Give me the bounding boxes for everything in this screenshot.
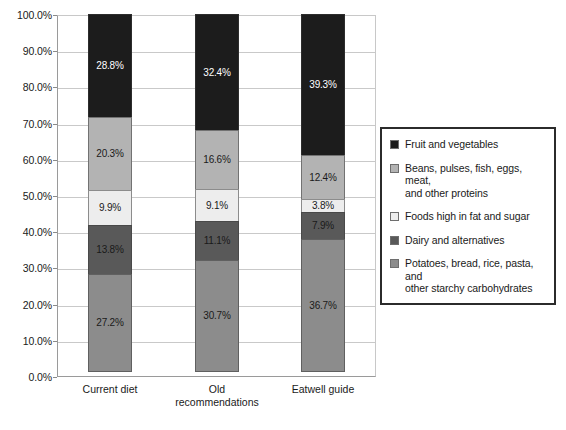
legend-swatch-icon bbox=[390, 140, 399, 149]
y-tick-label: 80.0% bbox=[0, 82, 52, 93]
bar-segment-value: 13.8% bbox=[96, 245, 123, 255]
bar-segment-value: 11.1% bbox=[204, 236, 231, 246]
bar-segment-value: 39.3% bbox=[309, 80, 336, 90]
x-tick-label: Current diet bbox=[50, 383, 170, 396]
stacked-bar-chart: 0.0%10.0%20.0%30.0%40.0%50.0%60.0%70.0%8… bbox=[0, 0, 566, 430]
y-tick-label: 10.0% bbox=[0, 336, 52, 347]
x-axis: Current dietOldrecommendationsEatwell gu… bbox=[57, 383, 376, 419]
bar-segment[interactable]: 16.6% bbox=[195, 130, 239, 190]
bar-segment[interactable]: 9.1% bbox=[195, 189, 239, 222]
x-tick-label: Eatwell guide bbox=[263, 383, 383, 396]
y-tick-label: 30.0% bbox=[0, 263, 52, 274]
bar-segment[interactable]: 36.7% bbox=[301, 239, 345, 372]
bar-column[interactable]: 32.4%16.6%9.1%11.1%30.7% bbox=[195, 15, 239, 377]
legend-label: Potatoes, bread, rice, pasta, andother s… bbox=[405, 257, 548, 295]
bar-segment[interactable]: 30.7% bbox=[195, 260, 239, 371]
legend-label: Foods high in fat and sugar bbox=[405, 210, 530, 223]
y-tick-label: 90.0% bbox=[0, 46, 52, 57]
bar-segment[interactable]: 11.1% bbox=[195, 221, 239, 261]
legend-label: Fruit and vegetables bbox=[405, 138, 498, 151]
x-tick-label-line: Eatwell guide bbox=[263, 383, 383, 396]
y-tick-label: 0.0% bbox=[0, 372, 52, 383]
bar-segment[interactable]: 3.8% bbox=[301, 199, 345, 213]
legend-item[interactable]: Foods high in fat and sugar bbox=[390, 210, 548, 223]
legend-swatch-icon bbox=[390, 236, 399, 245]
legend-item[interactable]: Potatoes, bread, rice, pasta, andother s… bbox=[390, 257, 548, 295]
y-tick-label: 40.0% bbox=[0, 227, 52, 238]
bar-segment-value: 9.1% bbox=[206, 201, 228, 211]
bar-segment-value: 20.3% bbox=[96, 149, 123, 159]
legend-item[interactable]: Beans, pulses, fish, eggs, meat,and othe… bbox=[390, 162, 548, 200]
bar-segment-value: 9.9% bbox=[99, 203, 121, 213]
bar-column[interactable]: 39.3%12.4%3.8%7.9%36.7% bbox=[301, 15, 345, 377]
legend-swatch-icon bbox=[390, 259, 399, 268]
bar-segment-value: 32.4% bbox=[203, 68, 230, 78]
legend-swatch-icon bbox=[390, 212, 399, 221]
legend-label-line: Beans, pulses, fish, eggs, meat, bbox=[405, 162, 548, 187]
bar-segment[interactable]: 28.8% bbox=[88, 14, 132, 118]
bar-segment-value: 16.6% bbox=[203, 155, 230, 165]
x-tick-label-line: Current diet bbox=[50, 383, 170, 396]
y-tick-label: 100.0% bbox=[0, 10, 52, 21]
bar-segment-value: 30.7% bbox=[203, 311, 230, 321]
bar-segment[interactable]: 9.9% bbox=[88, 190, 132, 226]
bars-layer: 28.8%20.3%9.9%13.8%27.2%32.4%16.6%9.1%11… bbox=[57, 15, 376, 377]
x-tick-label-line: Old bbox=[157, 383, 277, 396]
bar-segment[interactable]: 27.2% bbox=[88, 274, 132, 372]
bar-segment-value: 12.4% bbox=[309, 173, 336, 183]
legend-label-line: Fruit and vegetables bbox=[405, 138, 498, 151]
y-tick-mark bbox=[53, 377, 57, 378]
x-tick-label-line: recommendations bbox=[157, 396, 277, 409]
bar-segment[interactable]: 13.8% bbox=[88, 225, 132, 275]
legend-label: Dairy and alternatives bbox=[405, 234, 504, 247]
legend-label-line: Foods high in fat and sugar bbox=[405, 210, 530, 223]
x-tick-label: Oldrecommendations bbox=[157, 383, 277, 409]
legend-label-line: Dairy and alternatives bbox=[405, 234, 504, 247]
y-tick-label: 20.0% bbox=[0, 299, 52, 310]
legend-label-line: Potatoes, bread, rice, pasta, and bbox=[405, 257, 548, 282]
bar-segment-value: 7.9% bbox=[312, 221, 334, 231]
bar-segment[interactable]: 12.4% bbox=[301, 155, 345, 200]
y-tick-label: 60.0% bbox=[0, 155, 52, 166]
bar-segment[interactable]: 39.3% bbox=[301, 14, 345, 156]
legend-item[interactable]: Fruit and vegetables bbox=[390, 138, 548, 151]
bar-segment-value: 36.7% bbox=[309, 301, 336, 311]
y-tick-label: 50.0% bbox=[0, 191, 52, 202]
legend-item[interactable]: Dairy and alternatives bbox=[390, 234, 548, 247]
legend: Fruit and vegetablesBeans, pulses, fish,… bbox=[380, 127, 556, 305]
legend-label: Beans, pulses, fish, eggs, meat,and othe… bbox=[405, 162, 548, 200]
y-axis: 0.0%10.0%20.0%30.0%40.0%50.0%60.0%70.0%8… bbox=[0, 15, 52, 377]
bar-segment[interactable]: 20.3% bbox=[88, 117, 132, 190]
legend-label-line: and other proteins bbox=[405, 187, 548, 200]
y-tick-label: 70.0% bbox=[0, 118, 52, 129]
bar-segment-value: 27.2% bbox=[96, 318, 123, 328]
bar-segment-value: 28.8% bbox=[96, 61, 123, 71]
bar-segment-value: 3.8% bbox=[312, 201, 334, 211]
bar-column[interactable]: 28.8%20.3%9.9%13.8%27.2% bbox=[88, 15, 132, 377]
bar-segment[interactable]: 32.4% bbox=[195, 14, 239, 131]
legend-swatch-icon bbox=[390, 164, 399, 173]
bar-segment[interactable]: 7.9% bbox=[301, 212, 345, 241]
legend-label-line: other starchy carbohydrates bbox=[405, 282, 548, 295]
